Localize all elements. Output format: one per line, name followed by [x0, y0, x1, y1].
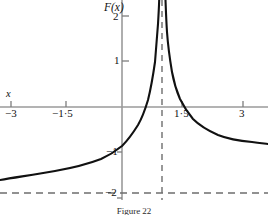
x-tick-label-1p5: 1·5 — [174, 108, 189, 119]
figure-container: F(x) x −3 −1·5 1·5 3 2 1 −1 −2 Figure 22 — [0, 0, 268, 215]
x-tick-label-neg1p5: −1·5 — [52, 108, 73, 119]
x-tick-label-3: 3 — [239, 108, 245, 119]
plot-canvas — [0, 0, 268, 215]
x-axis-label: x — [6, 89, 11, 100]
x-axis-ticks — [11, 101, 243, 107]
x-tick-label-neg3: −3 — [5, 108, 17, 119]
curve-left-branch — [0, 0, 159, 180]
y-tick-label-2: 2 — [113, 11, 119, 22]
curve-right-branch — [166, 0, 269, 144]
y-tick-label-neg2: −2 — [105, 187, 117, 198]
axes-group — [0, 0, 268, 200]
y-tick-label-1: 1 — [114, 55, 120, 66]
figure-caption: Figure 22 — [0, 206, 268, 215]
y-tick-label-neg1: −1 — [106, 146, 118, 157]
